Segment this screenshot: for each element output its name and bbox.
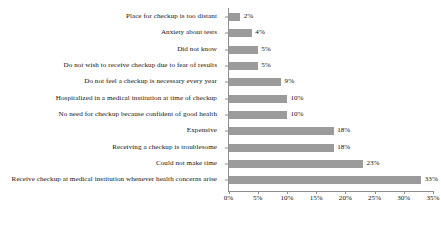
category-label: Anxiety about tests	[161, 30, 217, 37]
bar-container: 10%	[229, 95, 287, 103]
x-axis-tick-label: 30%	[397, 195, 410, 202]
category-label: Receive checkup at medical institution w…	[12, 177, 217, 184]
bar-row: Anxiety about tests4%	[0, 25, 441, 41]
bar-container: 5%	[229, 62, 258, 70]
bar-value-label: 10%	[290, 95, 303, 102]
bar-row: Hospitalized in a medical institution at…	[0, 91, 441, 107]
x-axis-tick-label: 20%	[339, 195, 352, 202]
x-axis-ticks: 0%5%10%15%20%25%30%35%	[0, 191, 441, 203]
bar	[229, 46, 258, 54]
x-axis-tick-label: 35%	[426, 195, 439, 202]
category-label: Receiving a checkup is troublesome	[112, 144, 217, 151]
x-axis-tick-label: 15%	[310, 195, 323, 202]
bar	[229, 78, 282, 86]
bar-value-label: 33%	[425, 177, 438, 184]
bar-row: Receive checkup at medical institution w…	[0, 172, 441, 188]
category-label: Place for checkup is too distant	[126, 14, 217, 21]
category-label: Hospitalized in a medical institution at…	[56, 95, 217, 102]
category-label: Could not make time	[156, 160, 217, 167]
bar-container: 5%	[229, 46, 258, 54]
bar-container: 10%	[229, 111, 287, 119]
bar-value-label: 10%	[290, 112, 303, 119]
bar-row: Do not wish to receive checkup due to fe…	[0, 58, 441, 74]
bar	[229, 29, 252, 37]
bar-container: 18%	[229, 127, 334, 135]
x-axis-tick-label: 25%	[368, 195, 381, 202]
horizontal-bar-chart: Place for checkup is too distant2%Anxiet…	[0, 0, 441, 225]
x-axis-tick-label: 5%	[253, 195, 262, 202]
bar-value-label: 5%	[261, 46, 270, 53]
bar-row: Did not know5%	[0, 42, 441, 58]
bar	[229, 62, 258, 70]
category-label: Did not know	[177, 46, 217, 53]
bar	[229, 13, 241, 21]
y-axis-line	[228, 8, 229, 191]
bar	[229, 95, 287, 103]
bar-container: 23%	[229, 160, 363, 168]
bar	[229, 127, 334, 135]
bar	[229, 144, 334, 152]
bar-value-label: 18%	[337, 144, 350, 151]
bar-container: 18%	[229, 144, 334, 152]
bar-value-label: 18%	[337, 128, 350, 135]
x-axis-tick-label: 0%	[224, 195, 233, 202]
bar-container: 2%	[229, 13, 241, 21]
bar	[229, 160, 363, 168]
bar-value-label: 23%	[366, 160, 379, 167]
bar-row: Receiving a checkup is troublesome18%	[0, 140, 441, 156]
category-label: Do not feel a checkup is necessary every…	[84, 79, 217, 86]
x-axis-tick-label: 10%	[280, 195, 293, 202]
bar-value-label: 9%	[285, 79, 294, 86]
bar-container: 9%	[229, 78, 282, 86]
bar-row: Could not make time23%	[0, 156, 441, 172]
bar-row: Expensive18%	[0, 123, 441, 139]
bar-value-label: 4%	[255, 30, 264, 37]
bar	[229, 111, 287, 119]
bar-row: No need for checkup because confident of…	[0, 107, 441, 123]
category-label: Do not wish to receive checkup due to fe…	[64, 63, 217, 70]
bar-row: Place for checkup is too distant2%	[0, 9, 441, 25]
bar	[229, 176, 422, 184]
bar-container: 33%	[229, 176, 422, 184]
bar-value-label: 2%	[244, 14, 253, 21]
category-label: Expensive	[187, 128, 217, 135]
bar-container: 4%	[229, 29, 252, 37]
bar-value-label: 5%	[261, 63, 270, 70]
category-label: No need for checkup because confident of…	[58, 112, 217, 119]
bar-row: Do not feel a checkup is necessary every…	[0, 74, 441, 90]
